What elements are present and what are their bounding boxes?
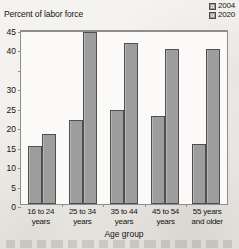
y-axis-tick-label: 5 bbox=[11, 183, 16, 193]
legend-swatch-icon bbox=[209, 12, 216, 19]
legend-label: 2020 bbox=[218, 11, 235, 19]
bar-2004 bbox=[110, 110, 124, 204]
y-axis-tick-label: 25 bbox=[7, 105, 16, 115]
x-axis-title: Age group bbox=[20, 229, 228, 239]
y-axis-tick bbox=[18, 71, 21, 72]
y-axis-tick bbox=[18, 188, 21, 189]
y-axis-tick-label: 15 bbox=[7, 144, 16, 154]
y-axis-tick bbox=[18, 90, 21, 91]
plot-frame: 0510152025304045 bbox=[20, 30, 228, 205]
y-axis-tick bbox=[18, 32, 21, 33]
bar-group bbox=[186, 32, 227, 204]
x-axis-tick-label: 55 yearsand older bbox=[186, 207, 228, 227]
bar-group bbox=[145, 32, 186, 204]
legend-label: 2004 bbox=[218, 2, 235, 10]
y-axis-tick bbox=[18, 168, 21, 169]
legend-item-2004: 2004 bbox=[209, 2, 235, 10]
bar-group bbox=[21, 32, 62, 204]
bar-group bbox=[62, 32, 103, 204]
chart-plot-area: 0510152025304045 bbox=[20, 30, 228, 205]
bar-2020 bbox=[83, 32, 97, 204]
bar-2020 bbox=[206, 49, 220, 204]
page-bleed-through-text bbox=[6, 240, 235, 248]
y-axis-tick-label: 40 bbox=[7, 46, 16, 56]
bar-groups bbox=[21, 32, 227, 204]
bar-2004 bbox=[28, 146, 42, 204]
bar-2004 bbox=[192, 144, 206, 204]
legend-swatch-icon bbox=[209, 3, 216, 10]
legend-item-2020: 2020 bbox=[209, 11, 235, 19]
bar-2004 bbox=[151, 116, 165, 204]
y-axis-tick-label: 20 bbox=[7, 124, 16, 134]
x-axis-tick-label: 25 to 34years bbox=[62, 207, 104, 227]
x-axis-tick-label: 16 to 24years bbox=[20, 207, 62, 227]
bar-2020 bbox=[124, 43, 138, 204]
bar-2004 bbox=[69, 120, 83, 204]
x-axis-tick-label: 45 to 54years bbox=[145, 207, 187, 227]
x-axis-tick-labels: 16 to 24years25 to 34years35 to 44years4… bbox=[20, 207, 228, 227]
y-axis-tick bbox=[18, 51, 21, 52]
bar-2020 bbox=[165, 49, 179, 204]
y-axis-tick-label: 30 bbox=[7, 85, 16, 95]
y-axis-tick bbox=[18, 149, 21, 150]
bar-group bbox=[103, 32, 144, 204]
bar-2020 bbox=[42, 134, 56, 204]
chart-legend: 2004 2020 bbox=[209, 2, 235, 19]
y-axis-tick bbox=[18, 110, 21, 111]
y-axis-tick-label: 0 bbox=[11, 202, 16, 212]
y-axis-tick bbox=[18, 129, 21, 130]
y-axis-tick-label: 45 bbox=[7, 27, 16, 37]
y-axis-tick-label: 10 bbox=[7, 163, 16, 173]
y-axis-title: Percent of labor force bbox=[4, 9, 83, 19]
x-axis-tick-label: 35 to 44years bbox=[103, 207, 145, 227]
